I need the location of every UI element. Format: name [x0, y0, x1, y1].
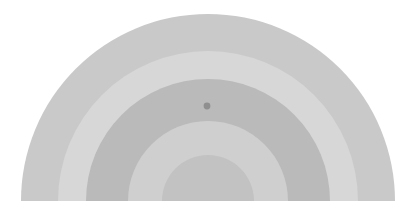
figure-canvas — [0, 0, 417, 217]
concentric-semicircle-chart — [0, 0, 417, 217]
marker-points-group — [204, 103, 211, 110]
marker-point[interactable] — [204, 103, 211, 110]
